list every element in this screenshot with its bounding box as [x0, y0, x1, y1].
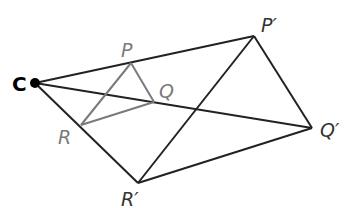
label-p: P	[121, 39, 133, 61]
label-c: C	[12, 72, 27, 96]
dilation-diagram: C P Q R P′ Q′ R′	[0, 0, 360, 208]
label-q-prime: Q′	[320, 119, 340, 141]
side-p-prime-q-prime	[254, 36, 312, 128]
label-p-prime: P′	[261, 14, 277, 36]
side-p-q	[131, 63, 154, 102]
center-point-c	[30, 78, 40, 88]
label-r: R	[58, 126, 71, 148]
side-q-r	[81, 102, 154, 125]
ray-c-to-p-prime	[35, 36, 254, 83]
label-q: Q	[159, 80, 174, 102]
label-r-prime: R′	[121, 188, 139, 208]
side-q-prime-r-prime	[138, 128, 312, 183]
